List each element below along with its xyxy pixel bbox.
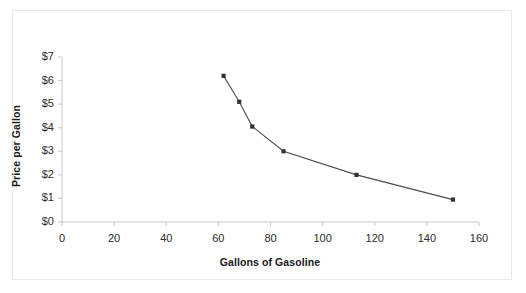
y-axis <box>58 57 62 222</box>
data-point-marker <box>250 124 254 128</box>
series-line <box>224 76 453 200</box>
x-axis <box>62 222 479 226</box>
data-point-marker <box>354 173 358 177</box>
data-point-marker <box>221 74 225 78</box>
data-point-marker <box>281 149 285 153</box>
data-series <box>221 74 455 202</box>
line-chart: Price per Gallon Gallons of Gasoline $0$… <box>0 0 526 293</box>
data-point-marker <box>451 198 455 202</box>
plot-area <box>0 0 526 293</box>
data-point-marker <box>237 100 241 104</box>
